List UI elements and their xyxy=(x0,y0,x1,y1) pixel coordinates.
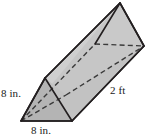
dimension-label-length: 2 ft xyxy=(110,85,125,96)
dimension-label-base: 8 in. xyxy=(31,125,51,136)
triangular-prism-figure: 8 in. 8 in. 2 ft xyxy=(0,0,147,140)
prism-drawing xyxy=(0,0,147,140)
dimension-label-height: 8 in. xyxy=(1,88,21,99)
